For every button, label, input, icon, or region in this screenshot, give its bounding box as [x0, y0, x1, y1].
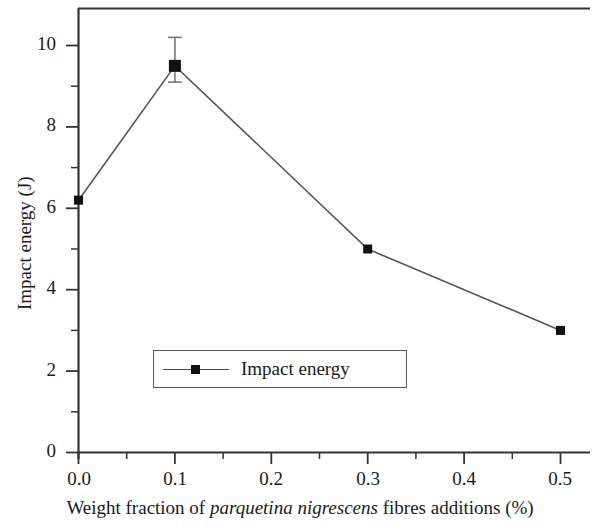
x-axis-label: Weight fraction of parquetina nigrescens…: [0, 497, 600, 519]
impact-energy-chart: 10 8 6 4 2 0 0.0 0.1 0.2 0.3 0.4 0.5 Imp…: [0, 0, 600, 529]
x-axis-label-suffix: fibres additions (%): [378, 497, 534, 518]
y-minor-ticks: [71, 86, 78, 412]
x-tick-label-0.5: 0.5: [529, 468, 591, 490]
impact-energy-line: [79, 66, 561, 331]
y-tick-label-8: 8: [18, 114, 56, 136]
data-point-marker: [556, 326, 565, 335]
y-tick-label-2: 2: [18, 359, 56, 381]
legend-line-sample: [163, 369, 229, 370]
data-point-marker: [74, 196, 83, 205]
x-tick-label-0.2: 0.2: [240, 468, 302, 490]
legend-entry-label: Impact energy: [241, 358, 350, 380]
y-axis-label: Impact energy (J): [14, 176, 36, 310]
data-point-marker: [169, 60, 181, 72]
x-tick-label-0.0: 0.0: [48, 468, 110, 490]
x-tick-label-0.1: 0.1: [144, 468, 206, 490]
y-tick-label-0: 0: [18, 440, 56, 462]
error-bars: [168, 37, 182, 82]
plot-canvas: [0, 0, 600, 529]
data-point-marker: [363, 245, 372, 254]
x-axis-label-prefix: Weight fraction of: [66, 497, 210, 518]
data-point-markers: [74, 60, 565, 335]
y-tick-label-10: 10: [18, 33, 56, 55]
legend-square-marker-icon: [191, 365, 200, 374]
x-tick-label-0.3: 0.3: [337, 468, 399, 490]
x-axis-label-species: parquetina nigrescens: [210, 497, 378, 518]
chart-legend[interactable]: Impact energy: [153, 350, 407, 388]
x-tick-label-0.4: 0.4: [433, 468, 495, 490]
